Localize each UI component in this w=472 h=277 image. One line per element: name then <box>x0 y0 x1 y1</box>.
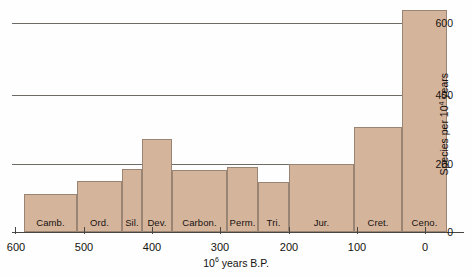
y-axis-zero-mark <box>410 232 418 233</box>
bar-label-tri: Tri. <box>258 217 289 228</box>
plot-area: Camb. Ord. Sil. Dev. Carbon. Perm. Tri. … <box>0 0 472 277</box>
y-axis-title-exponent: 4 <box>438 102 445 106</box>
bar-label-perm: Perm. <box>227 217 258 228</box>
bar-label-camb: Camb. <box>24 217 77 228</box>
bar-label-cret: Cret. <box>354 217 402 228</box>
x-tickmark-300 <box>220 227 221 234</box>
y-axis-title-tail: years <box>438 73 450 102</box>
x-tick-600: 600 <box>7 241 25 253</box>
y-axis-title: Species per 104 years <box>438 34 451 214</box>
x-tick-500: 500 <box>75 241 93 253</box>
x-tick-0: 0 <box>422 241 428 253</box>
x-tickmark-200 <box>289 227 290 234</box>
x-tickmark-500 <box>84 227 85 234</box>
x-tick-400: 400 <box>143 241 161 253</box>
bar-label-sil: Sil. <box>122 217 142 228</box>
bar-label-dev: Dev. <box>142 217 172 228</box>
gridline-400 <box>12 95 431 96</box>
x-tickmark-0 <box>425 227 426 234</box>
bar-label-jur: Jur. <box>289 217 354 228</box>
x-tick-300: 300 <box>211 241 229 253</box>
chart-figure: Camb. Ord. Sil. Dev. Carbon. Perm. Tri. … <box>0 0 472 277</box>
y-tick-0: 0 <box>447 226 453 238</box>
y-tick-600: 600 <box>435 17 453 29</box>
y-axis-title-head: Species per 10 <box>438 105 450 175</box>
x-tick-100: 100 <box>348 241 366 253</box>
x-axis-title-base: 10 <box>203 257 215 269</box>
x-axis-title-tail: years B.P. <box>219 257 269 269</box>
x-tick-200: 200 <box>280 241 298 253</box>
x-tickmark-100 <box>357 227 358 234</box>
gridline-600 <box>12 23 431 24</box>
x-tickmark-400 <box>152 227 153 234</box>
bar-label-carbon: Carbon. <box>172 217 227 228</box>
x-axis-title: 106 years B.P. <box>0 256 472 269</box>
x-axis-line <box>12 232 464 233</box>
x-tickmark-600 <box>15 227 16 234</box>
